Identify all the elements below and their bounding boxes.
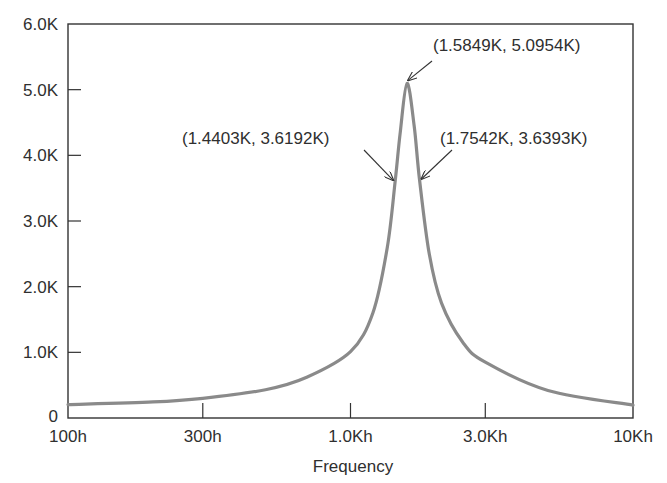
plot-frame: [68, 24, 633, 418]
x-tick-label: 300h: [184, 427, 222, 446]
y-tick-label: 4.0K: [23, 146, 59, 165]
y-tick-label: 2.0K: [23, 278, 59, 297]
annotation-arrow: [408, 61, 432, 80]
y-tick-label: 0: [49, 407, 58, 426]
annotations: (1.5849K, 5.0954K)(1.4403K, 3.6192K)(1.7…: [182, 36, 587, 180]
y-tick-label: 3.0K: [23, 212, 59, 231]
x-tick-label: 1.0Kh: [328, 427, 372, 446]
x-axis-title: Frequency: [313, 457, 394, 476]
y-axis: 01.0K2.0K3.0K4.0K5.0K6.0K: [23, 15, 81, 426]
annotation-arrow: [421, 150, 452, 179]
annotation-label: (1.4403K, 3.6192K): [182, 129, 329, 148]
chart-figure: 01.0K2.0K3.0K4.0K5.0K6.0K 100h300h1.0Kh3…: [0, 0, 667, 483]
x-tick-label: 100h: [49, 427, 87, 446]
annotation-label: (1.7542K, 3.6393K): [440, 129, 587, 148]
y-tick-label: 1.0K: [23, 343, 59, 362]
y-tick-label: 6.0K: [23, 15, 59, 34]
annotation-arrow: [364, 150, 393, 180]
annotation-label: (1.5849K, 5.0954K): [433, 36, 580, 55]
x-tick-label: 10Kh: [613, 427, 653, 446]
y-tick-label: 5.0K: [23, 81, 59, 100]
x-axis: 100h300h1.0Kh3.0Kh10Kh: [49, 403, 653, 446]
x-tick-label: 3.0Kh: [463, 427, 507, 446]
